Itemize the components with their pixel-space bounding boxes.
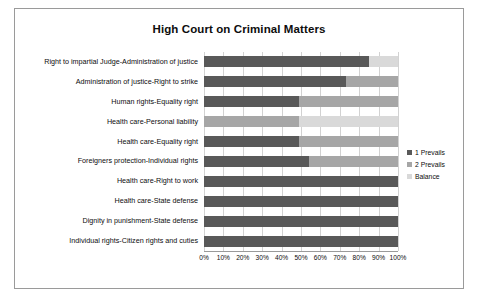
legend-item: 1 Prevails	[407, 149, 463, 156]
bar-segment	[309, 156, 398, 167]
chart-title: High Court on Criminal Matters	[15, 23, 463, 35]
bar-segment	[204, 216, 398, 227]
x-tick-label: 60%	[314, 254, 327, 261]
bar-segment	[204, 236, 398, 247]
legend-swatch-icon	[407, 162, 412, 167]
x-axis-line	[204, 251, 398, 252]
x-tick-label: 20%	[236, 254, 249, 261]
category-label: Administration of justice-Right to strik…	[76, 78, 198, 85]
x-tick-label: 0%	[199, 254, 209, 261]
category-label: Right to impartial Judge-Administration …	[44, 58, 198, 65]
bar-row	[204, 96, 398, 107]
bar-segment	[204, 196, 398, 207]
category-label: Health care-Right to work	[117, 178, 198, 185]
chart-frame: High Court on Criminal Matters Right to …	[14, 8, 464, 289]
bar-row	[204, 156, 398, 167]
category-label: Dignity in punishment-State defense	[83, 218, 198, 225]
x-tick-label: 100%	[390, 254, 407, 261]
bar-segment	[346, 76, 398, 87]
category-label: Health care-Equality right	[117, 138, 198, 145]
legend-swatch-icon	[407, 150, 412, 155]
category-label: Health care-State defense	[114, 198, 198, 205]
x-tick-label: 70%	[333, 254, 346, 261]
bar-segment	[204, 96, 299, 107]
bar-segment	[299, 96, 398, 107]
bar-row	[204, 236, 398, 247]
category-label: Human rights-Equality right	[111, 98, 198, 105]
bar-row	[204, 136, 398, 147]
bar-segment	[204, 136, 299, 147]
category-label: Foreigners protection-Individual rights	[78, 158, 198, 165]
legend-label: 2 Prevails	[415, 161, 445, 168]
bar-segment	[204, 156, 309, 167]
legend-item: 2 Prevails	[407, 161, 463, 168]
bar-segment	[204, 176, 398, 187]
bar-segment	[204, 76, 346, 87]
bar-segment	[204, 56, 369, 67]
bar-segment	[299, 116, 398, 127]
bar-segment	[299, 136, 398, 147]
bar-row	[204, 196, 398, 207]
legend-label: 1 Prevails	[415, 149, 445, 156]
x-tick-label: 80%	[353, 254, 366, 261]
x-tick-label: 40%	[275, 254, 288, 261]
x-tick-label: 50%	[294, 254, 307, 261]
gridline	[398, 52, 399, 251]
legend-swatch-icon	[407, 174, 412, 179]
x-tick-label: 10%	[217, 254, 230, 261]
bar-row	[204, 76, 398, 87]
bar-segment	[369, 56, 398, 67]
x-tick-label: 30%	[256, 254, 269, 261]
x-tick-label: 90%	[372, 254, 385, 261]
plot-area: 0%10%20%30%40%50%60%70%80%90%100%	[204, 52, 398, 251]
category-label: Individual rights-Citizen rights and cut…	[69, 237, 198, 244]
bar-row	[204, 216, 398, 227]
bar-row	[204, 176, 398, 187]
chart-legend: 1 Prevails2 PrevailsBalance	[407, 149, 463, 185]
category-axis-labels: Right to impartial Judge-Administration …	[23, 52, 201, 251]
bar-segment	[204, 116, 299, 127]
legend-label: Balance	[415, 173, 440, 180]
bar-row	[204, 116, 398, 127]
legend-item: Balance	[407, 173, 463, 180]
category-label: Health care-Personal liability	[107, 118, 198, 125]
bar-row	[204, 56, 398, 67]
